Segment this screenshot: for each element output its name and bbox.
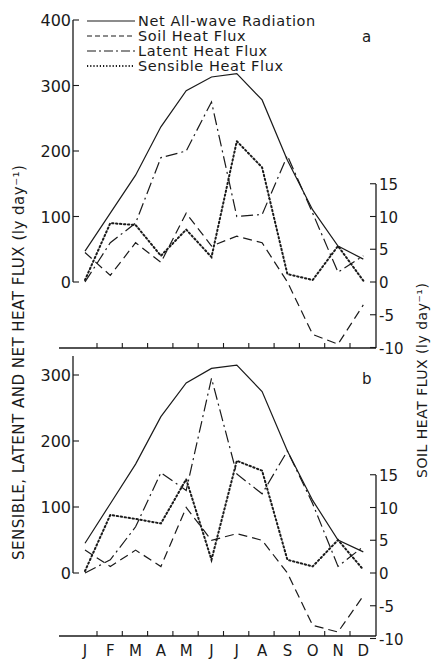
legend-label: Latent Heat Flux: [138, 43, 268, 59]
series-latent-heat-fluxb: [85, 378, 363, 573]
legend-label: Soil Heat Flux: [138, 28, 246, 44]
panel-b-letter: b: [362, 370, 372, 388]
month-label: F: [106, 642, 115, 660]
left-tick-label: 200: [40, 432, 71, 451]
month-label: A: [156, 642, 167, 660]
panel-a-letter: a: [362, 28, 371, 46]
right-tick-label: 10: [379, 209, 398, 227]
left-tick-label: 0: [61, 273, 71, 292]
legend-label: Net All-wave Radiation: [138, 13, 316, 29]
left-tick-label: 100: [40, 208, 71, 227]
left-tick-label: 200: [40, 142, 71, 161]
right-tick-label: -5: [379, 598, 394, 616]
month-label: M: [129, 642, 142, 660]
panel-b: 0100200300-10-5051015JFMAMJJASOND: [40, 356, 403, 660]
right-axis-label: SOIL HEAT FLUX (ly day⁻¹): [414, 283, 430, 478]
left-tick-label: 100: [40, 498, 71, 517]
series-net-all-wave-radiationb: [85, 365, 363, 552]
month-label: J: [208, 642, 213, 660]
series-soil-heat-fluxa: [85, 213, 363, 344]
month-label: J: [234, 642, 239, 660]
left-tick-label: 300: [40, 77, 71, 96]
right-tick-label: 0: [379, 565, 389, 583]
right-tick-label: 5: [379, 241, 389, 259]
right-tick-label: -5: [379, 307, 394, 325]
right-tick-label: 10: [379, 500, 398, 518]
right-tick-label: 0: [379, 274, 389, 292]
month-label: M: [180, 642, 193, 660]
month-label: D: [358, 642, 370, 660]
month-label: J: [82, 642, 87, 660]
legend: Net All-wave RadiationSoil Heat FluxLate…: [87, 13, 316, 74]
right-tick-label: 15: [379, 176, 398, 194]
right-tick-label: 15: [379, 467, 398, 485]
month-label: A: [257, 642, 268, 660]
series-net-all-wave-radiationa: [85, 74, 363, 259]
left-tick-label: 300: [40, 366, 71, 385]
right-tick-label: -10: [379, 340, 404, 358]
heat-flux-figure: 0100200300400-10-5051015 0100200300-10-5…: [0, 0, 438, 666]
right-tick-label: 5: [379, 532, 389, 550]
month-label: N: [332, 642, 343, 660]
left-tick-label: 400: [40, 11, 71, 30]
month-label: S: [283, 642, 293, 660]
month-label: O: [307, 642, 319, 660]
series-sensible-heat-fluxa: [85, 141, 363, 281]
right-tick-label: -10: [379, 631, 404, 649]
legend-label: Sensible Heat Flux: [138, 58, 284, 74]
left-tick-label: 0: [61, 564, 71, 583]
left-axis-label: SENSIBLE, LATENT AND NET HEAT FLUX (ly d…: [10, 165, 28, 560]
